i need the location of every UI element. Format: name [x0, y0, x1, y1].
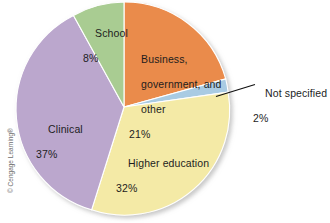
copyright-notice: © Cengage Learning® — [7, 119, 15, 193]
pie-label-school-value: 8% — [83, 52, 128, 65]
pie-label-higher-education-text: Higher education — [128, 157, 209, 169]
pie-label-school-text: School — [95, 27, 128, 39]
pie-chart-figure: School 8% Business, government, and othe… — [0, 0, 330, 223]
pie-label-business-line-1: Business, — [141, 53, 187, 65]
pie-label-higher-education: Higher education 32% — [116, 144, 209, 219]
pie-label-higher-education-value: 32% — [116, 182, 209, 195]
pie-label-business-line-3: other — [141, 103, 165, 115]
pie-label-school: School 8% — [83, 14, 128, 89]
pie-label-not-specified: Not specified 2% — [253, 74, 327, 149]
pie-label-clinical-text: Clinical — [48, 123, 83, 135]
pie-label-clinical-value: 37% — [36, 148, 83, 161]
pie-label-clinical: Clinical 37% — [36, 110, 83, 185]
pie-label-not-specified-text: Not specified — [265, 87, 327, 99]
pie-label-not-specified-value: 2% — [253, 112, 327, 125]
pie-label-business-value: 21% — [129, 128, 221, 141]
pie-label-business-line-2: government, and — [141, 78, 221, 90]
